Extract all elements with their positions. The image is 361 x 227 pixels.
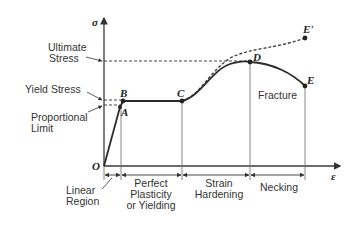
stress-strain-diagram: σ ε O A B C D E E' Ultimate Stress Yield… <box>0 0 361 227</box>
point-b-marker <box>121 99 126 104</box>
point-c-label: C <box>177 87 185 99</box>
linear-region-label-line2: Region <box>66 195 99 207</box>
fracture-label: Fracture <box>258 89 297 101</box>
y-axis-symbol: σ <box>92 16 99 28</box>
point-e-prime-label: E' <box>302 23 313 35</box>
point-d-label: D <box>252 51 261 63</box>
ultimate-stress-pointer <box>86 57 102 61</box>
proportional-limit-label-line2: Limit <box>31 122 53 134</box>
ultimate-stress-label-line2: Stress <box>49 52 79 64</box>
yield-stress-label: Yield Stress <box>25 83 81 95</box>
linear-region-pointer <box>102 178 112 189</box>
plastic-region-label-line3: or Yielding <box>126 199 175 211</box>
point-e-label: E <box>306 74 314 86</box>
point-b-label: B <box>119 87 127 99</box>
necking-region-label: Necking <box>260 181 298 193</box>
yield-stress-pointer <box>87 92 102 100</box>
point-d-marker <box>248 60 253 65</box>
x-axis-symbol: ε <box>331 170 336 182</box>
point-c-marker <box>180 99 185 104</box>
hardening-region-label-line2: Hardening <box>195 188 244 200</box>
point-e-prime-marker <box>303 36 308 41</box>
origin-label: O <box>92 160 100 172</box>
engineering-stress-curve <box>104 61 305 166</box>
point-a-label: A <box>120 106 128 118</box>
proportional-limit-pointer <box>88 106 102 112</box>
